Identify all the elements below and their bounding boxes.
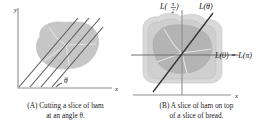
ham-blob-a (36, 22, 98, 69)
two-panel-figure: y x θ (A) Cutting a slice of ham at an a… (0, 0, 262, 134)
y-axis-label-a: y (13, 6, 18, 14)
caption-a: (A) Cutting a slice of ham at an angle θ… (0, 101, 131, 120)
caption-a-line2: at an angle θ. (0, 111, 131, 121)
two-denominator: 2 (172, 8, 175, 14)
panel-a: y x θ (A) Cutting a slice of ham at an a… (0, 0, 131, 134)
panel-a-diagram: y x θ (0, 0, 131, 100)
theta-label-a: θ (64, 76, 68, 85)
svg-text:L(: L( (159, 2, 168, 11)
label-L0-equals-Lpi: L(0) = L(π) (214, 51, 252, 60)
label-L-theta: L(θ) (198, 2, 213, 11)
caption-b: (B) A slice of ham on top of a slice of … (131, 101, 262, 120)
label-L-pi-over-2: L( π 2 ) (159, 1, 179, 13)
panel-b: x L( π 2 ) L(θ) L(0) = L(π) (B) A slice … (131, 0, 262, 134)
svg-text:): ) (175, 2, 179, 11)
angle-arc-a (56, 83, 62, 87)
panel-b-diagram: x L( π 2 ) L(θ) L(0) = L(π) (131, 0, 262, 100)
pi-numerator: π (172, 1, 175, 7)
caption-a-line1: (A) Cutting a slice of ham (0, 101, 131, 111)
x-axis-label-b: x (234, 92, 239, 100)
caption-b-line1: (B) A slice of ham on top (131, 101, 262, 111)
caption-b-line2: of a slice of bread. (131, 111, 262, 121)
x-axis-label-a: x (114, 85, 119, 93)
